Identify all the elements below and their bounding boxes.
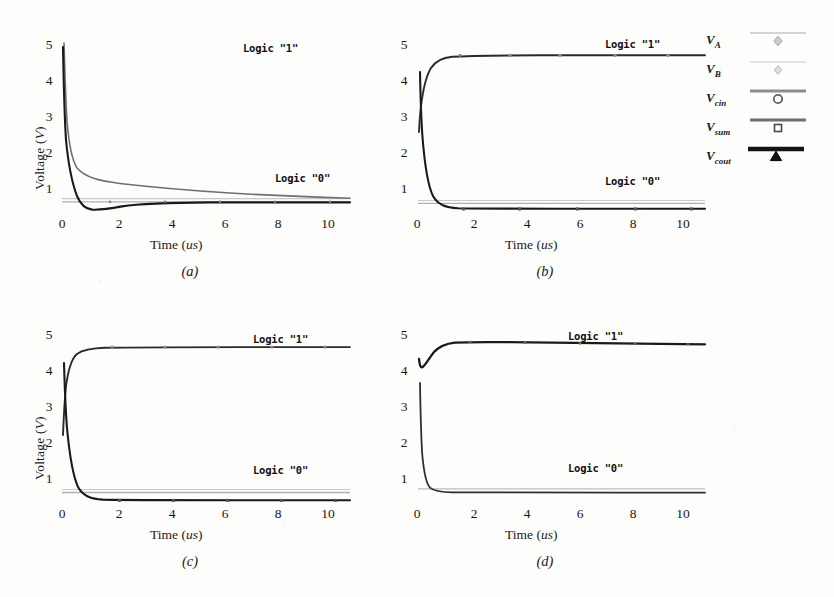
legend-label-vcout: Vcout [706, 148, 748, 166]
legend-item-vcin[interactable]: Vcin [706, 90, 808, 108]
panel-a: Voltage (V) 5 4 3 2 1 0 2 4 6 8 10 Time … [0, 20, 400, 290]
legend-symbol-vsum [748, 120, 808, 136]
legend-item-vsum[interactable]: Vsum [706, 119, 808, 137]
x-axis-label-d: Time (us) [505, 527, 557, 543]
plot-curves-a [0, 20, 400, 220]
diamond-marker [774, 66, 782, 75]
panel-d: 5 4 3 2 1 0 2 4 6 8 10 Time (us) (d) Log… [400, 310, 720, 590]
legend-symbol-vb [748, 62, 808, 78]
plot-curves-d [400, 310, 720, 510]
plot-curves-c [0, 310, 400, 510]
legend: VA VB Vcin [706, 32, 834, 182]
legend-symbol-vcin [748, 91, 808, 107]
figure-transient-response: Voltage (V) 5 4 3 2 1 0 2 4 6 8 10 Time … [0, 0, 834, 597]
x-axis-label-a: Time (us) [150, 237, 202, 253]
legend-item-vcout[interactable]: Vcout [706, 148, 808, 166]
panel-caption-c: (c) [160, 553, 220, 570]
square-marker [775, 125, 782, 132]
diamond-marker [774, 36, 782, 46]
legend-item-vb[interactable]: VB [706, 61, 808, 79]
panel-caption-a: (a) [160, 263, 220, 280]
triangle-marker [770, 151, 781, 160]
panel-caption-b: (b) [515, 263, 575, 280]
legend-label-va: VA [706, 32, 748, 50]
plot-curves-b [400, 20, 720, 220]
x-axis-label-c: Time (us) [150, 527, 202, 543]
legend-symbol-va [748, 33, 808, 49]
circle-marker [774, 95, 782, 103]
legend-symbol-vcout [748, 149, 808, 165]
panel-caption-d: (d) [515, 553, 575, 570]
panel-c: Voltage (V) 5 4 3 2 1 0 2 4 6 8 10 Time … [0, 310, 400, 590]
legend-item-va[interactable]: VA [706, 32, 808, 50]
legend-label-vsum: Vsum [706, 119, 748, 137]
x-axis-label-b: Time (us) [505, 237, 557, 253]
legend-label-vb: VB [706, 61, 748, 79]
panel-b: 5 4 3 2 1 0 2 4 6 8 10 Time (us) (b) Log… [400, 20, 720, 290]
legend-label-vcin: Vcin [706, 90, 748, 108]
